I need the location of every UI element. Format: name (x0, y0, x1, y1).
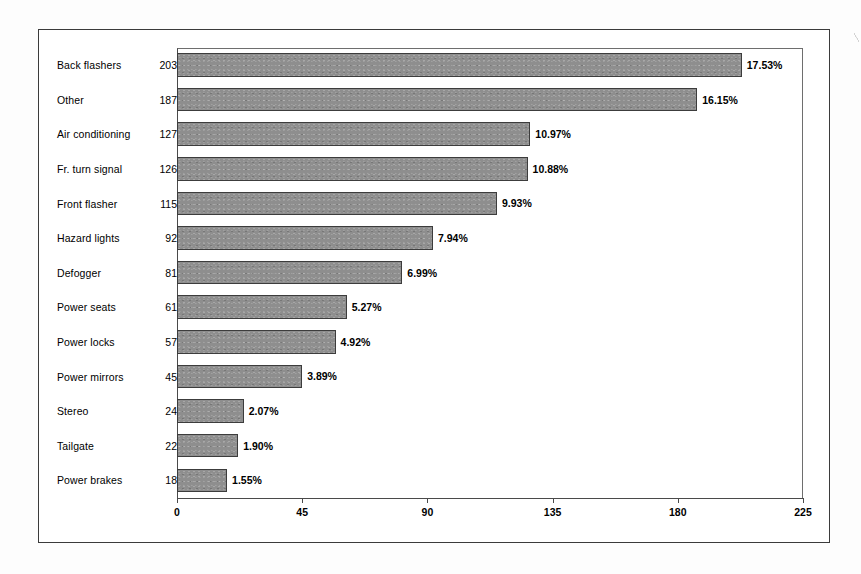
bar-percentage-label: 16.15% (697, 94, 738, 106)
category-row: Power locks57 (57, 325, 177, 359)
category-value: 81 (161, 267, 177, 279)
x-axis-line (177, 498, 803, 499)
bar-with-label: 5.27% (177, 295, 381, 319)
bar[interactable] (177, 295, 347, 319)
category-value: 24 (161, 405, 177, 417)
category-row: Front flasher115 (57, 186, 177, 220)
bar-percentage-label: 6.99% (402, 267, 437, 279)
category-row: Hazard lights92 (57, 221, 177, 255)
bar-percentage-label: 3.89% (302, 370, 337, 382)
bar-with-label: 2.07% (177, 399, 279, 423)
category-name: Air conditioning (57, 128, 130, 140)
x-axis-tick-label: 135 (544, 506, 562, 518)
bar[interactable] (177, 365, 302, 389)
category-row: Defogger81 (57, 256, 177, 290)
bar-with-label: 7.94% (177, 226, 468, 250)
category-name: Power mirrors (57, 371, 124, 383)
category-name: Power brakes (57, 474, 122, 486)
bar[interactable] (177, 226, 433, 250)
bar-row: 10.88% (177, 152, 803, 186)
x-axis-tick-label: 90 (422, 506, 434, 518)
category-row: Back flashers203 (57, 48, 177, 82)
category-name: Other (57, 94, 84, 106)
category-value: 61 (161, 301, 177, 313)
figure-frame: Back flashers203Other187Air conditioning… (38, 29, 830, 543)
category-name: Power seats (57, 301, 116, 313)
bar-percentage-label: 2.07% (244, 405, 279, 417)
bar[interactable] (177, 192, 497, 216)
category-name: Fr. turn signal (57, 163, 122, 175)
bar[interactable] (177, 157, 528, 181)
category-name: Hazard lights (57, 232, 120, 244)
x-axis-tick-label: 225 (794, 506, 812, 518)
bar-row: 16.15% (177, 83, 803, 117)
bar-with-label: 10.88% (177, 157, 568, 181)
category-value: 57 (161, 336, 177, 348)
bar[interactable] (177, 261, 402, 285)
bar-row: 7.94% (177, 221, 803, 255)
scanned-page: Back flashers203Other187Air conditioning… (0, 0, 861, 574)
bar-with-label: 6.99% (177, 261, 437, 285)
category-value: 203 (155, 59, 177, 71)
bar-row: 1.55% (177, 463, 803, 497)
bar[interactable] (177, 53, 742, 77)
x-axis-tick (177, 498, 178, 503)
category-value: 18 (161, 474, 177, 486)
x-axis-tick-label: 45 (296, 506, 308, 518)
category-row: Other187 (57, 83, 177, 117)
bar[interactable] (177, 469, 227, 493)
category-value: 115 (156, 198, 177, 210)
category-name: Tailgate (57, 440, 94, 452)
bar-percentage-label: 9.93% (497, 197, 532, 209)
category-row: Fr. turn signal126 (57, 152, 177, 186)
bar-row: 2.07% (177, 394, 803, 428)
bar-with-label: 10.97% (177, 122, 571, 146)
category-name: Stereo (57, 405, 89, 417)
category-row: Air conditioning127 (57, 117, 177, 151)
bar-with-label: 3.89% (177, 365, 337, 389)
category-row: Power mirrors45 (57, 360, 177, 394)
category-row: Tailgate22 (57, 429, 177, 463)
horizontal-bar-chart: Back flashers203Other187Air conditioning… (39, 30, 831, 544)
x-axis-tick (803, 498, 804, 503)
category-row: Stereo24 (57, 394, 177, 428)
category-value: 45 (161, 371, 177, 383)
bar-percentage-label: 10.97% (530, 128, 571, 140)
x-axis-tick (302, 498, 303, 503)
bar-row: 9.93% (177, 186, 803, 220)
x-axis-tick-label: 0 (174, 506, 180, 518)
x-axis-tick (678, 498, 679, 503)
bar-with-label: 1.55% (177, 469, 262, 493)
bar-percentage-label: 10.88% (528, 163, 569, 175)
bar[interactable] (177, 88, 697, 112)
bar-row: 1.90% (177, 429, 803, 463)
bar-percentage-label: 4.92% (336, 336, 371, 348)
scan-artifact-speck (853, 33, 860, 42)
bar-row: 5.27% (177, 290, 803, 324)
category-name: Power locks (57, 336, 115, 348)
category-label-column: Back flashers203Other187Air conditioning… (57, 48, 177, 498)
bar-percentage-label: 1.55% (227, 474, 262, 486)
bar-row: 17.53% (177, 48, 803, 82)
bar-row: 6.99% (177, 256, 803, 290)
category-row: Power seats61 (57, 290, 177, 324)
category-row: Power brakes18 (57, 463, 177, 497)
bar-with-label: 16.15% (177, 88, 738, 112)
category-name: Front flasher (57, 198, 117, 210)
bar-percentage-label: 5.27% (347, 301, 382, 313)
bar-percentage-label: 17.53% (742, 59, 783, 71)
bar[interactable] (177, 330, 336, 354)
category-value: 126 (155, 163, 177, 175)
bar-percentage-label: 1.90% (238, 440, 273, 452)
category-name: Back flashers (57, 59, 121, 71)
bar[interactable] (177, 122, 530, 146)
bar-with-label: 9.93% (177, 192, 532, 216)
bar-with-label: 4.92% (177, 330, 370, 354)
category-name: Defogger (57, 267, 101, 279)
x-axis-tick (553, 498, 554, 503)
plot-area: 17.53%16.15%10.97%10.88%9.93%7.94%6.99%5… (177, 48, 803, 498)
bar[interactable] (177, 399, 244, 423)
bar[interactable] (177, 434, 238, 458)
bar-row: 4.92% (177, 325, 803, 359)
bar-percentage-label: 7.94% (433, 232, 468, 244)
